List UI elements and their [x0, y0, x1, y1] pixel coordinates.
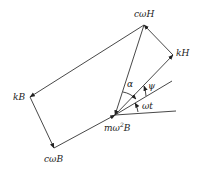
wt-reference-line: [115, 111, 176, 115]
label-alpha: α: [127, 80, 133, 89]
diagram-graphics: [0, 0, 202, 176]
vector-resultant: [115, 25, 144, 115]
label-mw2B-suffix: B: [124, 123, 131, 133]
label-cwB: cωB: [44, 155, 63, 164]
label-mw2B: mω2B: [104, 122, 130, 133]
label-kH: kH: [176, 49, 189, 58]
vector-diagram: cωH kH kB cωB mω2B α ψ ωt: [0, 0, 202, 176]
vector-cwB: [30, 97, 54, 148]
label-mw2B-prefix: mω: [104, 123, 120, 133]
label-psi: ψ: [148, 82, 155, 91]
label-wt: ωt: [142, 102, 153, 111]
wt-arc: [135, 103, 138, 112]
label-kB: kB: [13, 93, 25, 102]
label-cwH: cωH: [134, 10, 154, 19]
vector-cwH: [144, 25, 173, 55]
psi-arc: [144, 86, 146, 96]
